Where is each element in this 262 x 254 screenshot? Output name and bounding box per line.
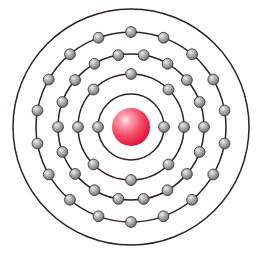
- electron-shell3-7: [89, 185, 100, 196]
- atom-diagram-canvas: [0, 0, 262, 254]
- electron-shell3-11: [57, 97, 68, 108]
- electron-shell3-12: [70, 75, 81, 86]
- electron-shell4-10: [32, 105, 43, 116]
- electron-shell2-5: [73, 122, 84, 133]
- electron-shell3-3: [182, 169, 193, 180]
- electron-shell2-1: [179, 122, 190, 133]
- electron-shell3-4: [162, 185, 173, 196]
- electron-shell4-11: [43, 74, 54, 85]
- electron-shell4-13: [93, 32, 104, 43]
- electron-shell3-6: [113, 193, 124, 204]
- electron-shell3-9: [57, 147, 68, 158]
- electron-shell4-6: [93, 211, 104, 222]
- electron-shell3-17: [182, 75, 193, 86]
- electron-shell4-2: [208, 169, 219, 180]
- electron-shell4-8: [43, 169, 54, 180]
- atom-diagram-figure: [0, 0, 262, 254]
- electron-shell3-8: [70, 169, 81, 180]
- electron-shell3-15: [138, 50, 149, 61]
- electron-shell3-2: [194, 147, 205, 158]
- nucleus: [112, 108, 150, 146]
- electron-shell3-13: [89, 58, 100, 69]
- electron-shell2-3: [126, 175, 137, 186]
- electron-shell4-14: [126, 27, 137, 38]
- electron-shell4-16: [187, 49, 198, 60]
- electron-shell4-9: [32, 138, 43, 149]
- electron-shell3-16: [162, 58, 173, 69]
- electron-shell1-2: [93, 122, 104, 133]
- electron-shell4-3: [187, 194, 198, 205]
- electron-shell4-15: [158, 32, 169, 43]
- electron-shell2-2: [163, 159, 174, 170]
- electron-shell2-7: [126, 69, 137, 80]
- electron-shell2-4: [88, 159, 99, 170]
- electron-shell2-6: [88, 84, 99, 95]
- electron-shell4-7: [65, 194, 76, 205]
- electron-shell3-18: [194, 97, 205, 108]
- electron-shell4-12: [65, 49, 76, 60]
- electron-shell2-8: [163, 84, 174, 95]
- electron-shell4-4: [158, 211, 169, 222]
- electron-shell4-17: [208, 74, 219, 85]
- electron-shell3-14: [113, 50, 124, 61]
- electron-shell4-5: [126, 217, 137, 228]
- electron-shell1-1: [159, 122, 170, 133]
- electron-shell4-18: [219, 105, 230, 116]
- electron-shell3-5: [138, 193, 149, 204]
- electron-shell3-10: [53, 122, 64, 133]
- electron-shell4-1: [219, 138, 230, 149]
- nucleus-sphere: [112, 108, 150, 146]
- electron-shell3-1: [199, 122, 210, 133]
